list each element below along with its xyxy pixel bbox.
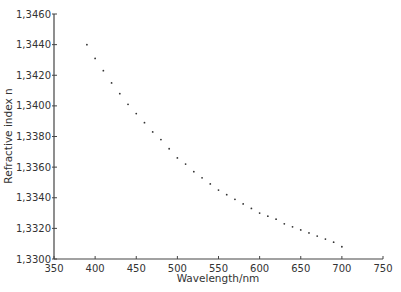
y-tick-label: 1,3460 — [16, 9, 51, 20]
data-point — [185, 163, 187, 165]
y-tick-label: 1,3320 — [16, 223, 51, 234]
x-axis-label: Wavelength/nm — [177, 272, 260, 284]
data-point — [226, 194, 228, 196]
x-tick-label: 650 — [291, 263, 310, 274]
x-tick-label: 700 — [332, 263, 351, 274]
data-point — [283, 223, 285, 225]
y-tick-label: 1,3360 — [16, 162, 51, 173]
data-point — [160, 139, 162, 141]
x-tick-label: 450 — [127, 263, 146, 274]
data-point — [127, 103, 129, 105]
data-point — [333, 241, 335, 243]
data-point — [176, 157, 178, 159]
data-point — [86, 44, 88, 46]
data-point — [102, 70, 104, 72]
y-tick-label: 1,3380 — [16, 131, 51, 142]
data-point — [292, 226, 294, 228]
y-tick-label: 1,3340 — [16, 192, 51, 203]
x-tick-label: 400 — [86, 263, 105, 274]
data-point — [119, 93, 121, 95]
data-point — [267, 215, 269, 217]
data-point — [316, 235, 318, 237]
data-point — [201, 177, 203, 179]
x-tick-label: 750 — [373, 263, 392, 274]
data-point — [275, 218, 277, 220]
data-point — [242, 203, 244, 205]
y-tick-label: 1,3400 — [16, 100, 51, 111]
data-point — [308, 232, 310, 234]
data-point — [218, 189, 220, 191]
data-point — [152, 131, 154, 133]
data-point — [193, 171, 195, 173]
data-point — [168, 148, 170, 150]
data-point — [259, 212, 261, 214]
data-point — [135, 113, 137, 115]
y-axis-label: Refractive index n — [2, 88, 14, 183]
data-point — [144, 122, 146, 124]
data-point — [341, 246, 343, 248]
data-point — [94, 58, 96, 60]
data-point — [300, 229, 302, 231]
data-point — [251, 208, 253, 210]
data-points — [86, 44, 343, 248]
data-point — [234, 198, 236, 200]
y-axis: 1,33001,33201,33401,33601,33801,34001,34… — [16, 9, 57, 265]
y-tick-label: 1,3420 — [16, 70, 51, 81]
refractive-index-chart: 1,33001,33201,33401,33601,33801,34001,34… — [0, 0, 401, 292]
data-point — [111, 82, 113, 84]
data-point — [325, 238, 327, 240]
x-tick-label: 350 — [44, 263, 63, 274]
y-tick-label: 1,3440 — [16, 39, 51, 50]
data-point — [209, 183, 211, 185]
